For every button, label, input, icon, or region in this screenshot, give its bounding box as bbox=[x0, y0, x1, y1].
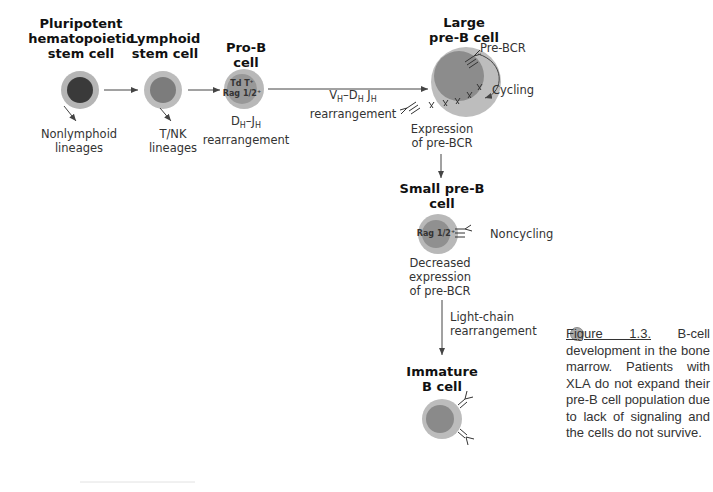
large-pre-b-cell bbox=[400, 47, 501, 117]
small-pre-b-title: Small pre-B cell bbox=[394, 181, 490, 211]
label-line: of pre-BCR bbox=[400, 284, 480, 298]
dj-rearrangement-label: DH–JH rearrangement bbox=[202, 114, 290, 147]
label-line: rearrangement bbox=[298, 107, 408, 121]
label-line: rearrangement bbox=[450, 324, 540, 338]
seg: J bbox=[364, 88, 371, 102]
label-line: of pre-BCR bbox=[405, 136, 479, 150]
lymphoid-stem-cell bbox=[144, 71, 182, 109]
title-line: Immature bbox=[400, 364, 484, 379]
figure-caption: Figure 1.3. B-cell development in the bo… bbox=[566, 326, 710, 442]
vdj-formula: VH–DH JH bbox=[298, 88, 408, 107]
title-line: hematopoietic bbox=[22, 31, 140, 46]
title-line: stem cell bbox=[22, 46, 140, 61]
lymphoid-title: Lymphoid stem cell bbox=[126, 31, 204, 61]
title-line: stem cell bbox=[126, 46, 204, 61]
seg: –J bbox=[246, 114, 255, 128]
immature-b-cell bbox=[422, 391, 474, 445]
pre-bcr-expression-label: Expression of pre-BCR bbox=[405, 122, 479, 150]
small-pre-b-marker: Rag 1/2⁺ bbox=[416, 229, 456, 239]
seg: D bbox=[231, 114, 240, 128]
arrow-tnk bbox=[160, 108, 171, 121]
title-line: Pluripotent bbox=[22, 16, 140, 31]
vdj-rearrangement-label: VH–DH JH rearrangement bbox=[298, 88, 408, 121]
seg: –D bbox=[343, 88, 358, 102]
title-line: Small pre-B bbox=[394, 181, 490, 196]
seg: V bbox=[329, 88, 337, 102]
label-line: Expression bbox=[405, 122, 479, 136]
pluripotent-stem-cell bbox=[61, 71, 99, 109]
marker-rag: Rag 1/2⁺ bbox=[222, 89, 262, 99]
decreased-expression-label: Decreased expression of pre-BCR bbox=[400, 256, 480, 298]
label-line: Decreased bbox=[400, 256, 480, 270]
marker-tdt: Td T⁺ bbox=[222, 79, 262, 89]
tnk-label: T/NK lineages bbox=[140, 127, 206, 155]
noncycling-label: Noncycling bbox=[490, 227, 560, 241]
label-line: lineages bbox=[34, 141, 124, 155]
label-line: Light-chain bbox=[450, 310, 540, 324]
title-line: B cell bbox=[400, 379, 484, 394]
caption-text: B-cell development in the bone marrow. P… bbox=[566, 326, 710, 440]
arrow-nonlymphoid bbox=[64, 106, 76, 121]
label-line: T/NK bbox=[140, 127, 206, 141]
label-line: rearrangement bbox=[202, 133, 290, 147]
immature-b-title: Immature B cell bbox=[400, 364, 484, 394]
title-line: Lymphoid bbox=[126, 31, 204, 46]
label-line: lineages bbox=[140, 141, 206, 155]
pro-b-markers: Td T⁺ Rag 1/2⁺ bbox=[222, 79, 262, 99]
cycling-label: Cycling bbox=[492, 83, 552, 97]
pluripotent-title: Pluripotent hematopoietic stem cell bbox=[22, 16, 140, 61]
sub: H bbox=[371, 95, 377, 104]
dj-formula: DH–JH bbox=[202, 114, 290, 133]
title-line: Large bbox=[414, 15, 514, 30]
nonlymphoid-label: Nonlymphoid lineages bbox=[34, 127, 124, 155]
light-chain-label: Light-chain rearrangement bbox=[450, 310, 540, 338]
figure-reference[interactable]: Figure 1.3. bbox=[566, 326, 651, 341]
label-line: Nonlymphoid bbox=[34, 127, 124, 141]
sub: H bbox=[255, 121, 261, 130]
label-line: expression bbox=[400, 270, 480, 284]
title-line: cell bbox=[394, 196, 490, 211]
pre-bcr-label: Pre-BCR bbox=[480, 41, 540, 55]
pro-b-title: Pro-B cell bbox=[212, 40, 280, 70]
